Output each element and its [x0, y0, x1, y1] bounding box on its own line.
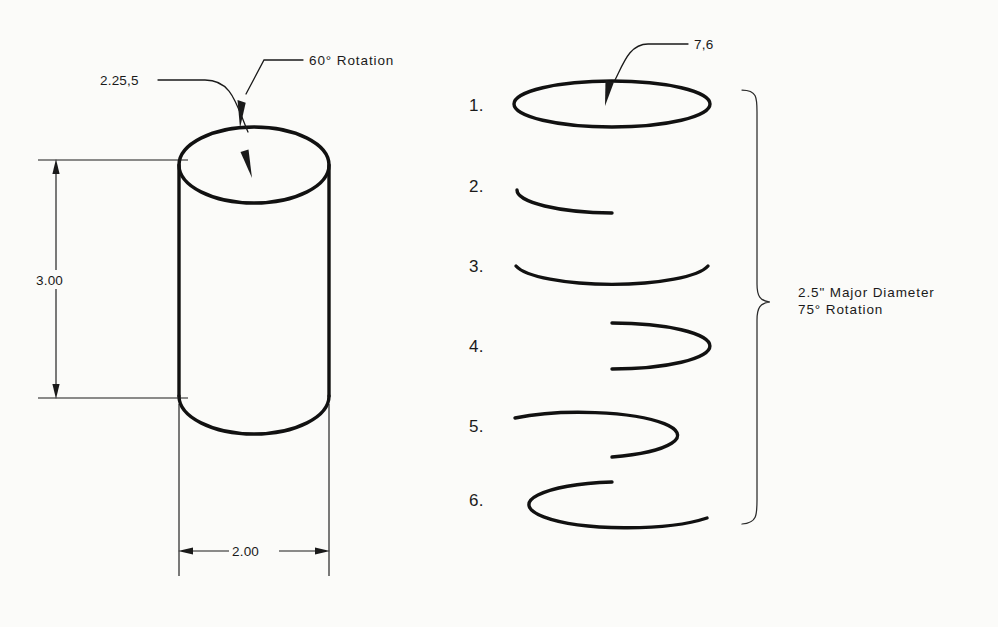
- step-callout-text: 7,6: [694, 37, 713, 52]
- step-leader-line: [615, 44, 688, 80]
- technical-drawing-canvas: 3.00 2.00 2.25,5 60°: [0, 0, 998, 627]
- sequence-shape-5: [515, 412, 678, 457]
- rotation-sequence-view: 1. 2. 3. 4. 5. 6. 7,6: [469, 37, 935, 528]
- sequence-item-label-4: 4.: [469, 337, 484, 356]
- sequence-item-label-2: 2.: [469, 177, 484, 196]
- coordinate-leader-line: [158, 80, 248, 132]
- sequence-item-label-1: 1.: [469, 96, 484, 115]
- cylinder-isometric-view: 3.00 2.00 2.25,5 60°: [33, 53, 394, 576]
- sequence-shape-2: [517, 190, 612, 213]
- major-diameter-brace: 2.5" Major Diameter 75° Rotation: [742, 90, 935, 524]
- coordinate-callout-text: 2.25,5: [100, 73, 139, 88]
- coordinate-leader-arrow: [241, 150, 253, 179]
- rotation-callout: 60° Rotation: [238, 53, 395, 128]
- rotation-leader-line: [246, 60, 303, 94]
- height-arrow-down: [52, 384, 59, 399]
- height-dimension: 3.00: [33, 159, 188, 399]
- sequence-item-label-5: 5.: [469, 417, 484, 436]
- height-dimension-text: 3.00: [36, 273, 63, 288]
- sequence-item-label-3: 3.: [469, 257, 484, 276]
- major-diameter-note-line2: 75° Rotation: [798, 302, 883, 317]
- width-dimension-text: 2.00: [232, 544, 259, 559]
- sequence-shape-3: [516, 266, 708, 284]
- cylinder-top-ellipse: [179, 127, 329, 203]
- step-leader-arrow: [605, 80, 614, 106]
- sequence-item-label-6: 6.: [469, 491, 484, 510]
- width-arrow-left: [178, 547, 193, 554]
- coordinate-callout: 2.25,5: [100, 73, 252, 178]
- height-arrow-up: [52, 159, 59, 174]
- drawing-sheet: 3.00 2.00 2.25,5 60°: [0, 0, 998, 627]
- sequence-shape-1: [514, 81, 710, 127]
- major-diameter-note-line1: 2.5" Major Diameter: [798, 285, 935, 300]
- sequence-shape-6: [529, 482, 707, 528]
- step-callout: 7,6: [605, 37, 713, 106]
- sequence-shape-4: [612, 323, 710, 369]
- width-arrow-right: [315, 547, 330, 554]
- brace-path: [742, 90, 770, 524]
- cylinder-bottom-arc: [179, 396, 329, 434]
- width-dimension: 2.00: [178, 404, 330, 576]
- rotation-callout-text: 60° Rotation: [309, 53, 394, 68]
